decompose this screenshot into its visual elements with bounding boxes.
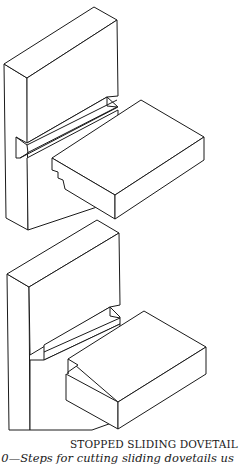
figure-title: STOPPED SLIDING DOVETAIL bbox=[70, 438, 238, 450]
figure-subcaption: 10—Steps for cutting sliding dovetails u… bbox=[0, 451, 234, 465]
